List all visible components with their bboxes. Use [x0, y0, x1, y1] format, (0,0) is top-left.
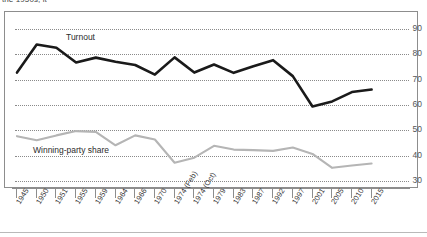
series-label-turnout: Turnout	[66, 32, 95, 42]
y-axis-label-50: 50	[406, 124, 422, 134]
chart-root: the 1950s, it 90807060504030 Turnout Win…	[0, 0, 427, 237]
y-axis-label-40: 40	[406, 150, 422, 160]
y-axis-label-90: 90	[406, 23, 422, 33]
y-axis-label-30: 30	[406, 175, 422, 185]
y-axis-label-60: 60	[406, 99, 422, 109]
figure-caption: the 1950s, it	[2, 0, 47, 4]
y-axis-label-80: 80	[406, 48, 422, 58]
y-axis-label-70: 70	[406, 74, 422, 84]
series-line-turnout	[17, 44, 372, 106]
bottom-divider	[0, 232, 427, 233]
series-label-winning-party-share: Winning-party share	[33, 145, 109, 155]
y-axis-labels: 90807060504030	[396, 11, 424, 188]
